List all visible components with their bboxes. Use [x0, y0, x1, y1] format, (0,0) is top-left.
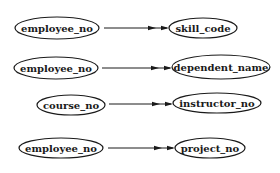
node-label: employee_no — [25, 143, 97, 154]
dependency-arrow — [109, 102, 173, 106]
edges-layer — [102, 26, 175, 150]
nodes-layer: employee_noskill_codeemployee_nodependen… — [14, 17, 270, 158]
arrowhead-icon — [161, 26, 169, 30]
attribute-node: project_no — [175, 138, 245, 158]
dependency-arrow — [102, 66, 172, 70]
arrowhead-icon — [165, 102, 173, 106]
attribute-node: employee_no — [14, 57, 98, 79]
node-label: project_no — [181, 143, 240, 154]
dependency-arrow — [108, 146, 175, 150]
node-label: instructor_no — [179, 98, 255, 109]
attribute-node: employee_no — [15, 17, 99, 39]
node-label: employee_no — [21, 23, 93, 34]
attribute-node: skill_code — [169, 18, 237, 38]
attribute-node: dependent_name — [172, 55, 270, 79]
attribute-node: course_no — [37, 95, 105, 115]
arrowhead-icon — [151, 66, 159, 70]
node-label: skill_code — [175, 23, 230, 34]
dependency-arrow — [104, 26, 169, 30]
node-label: course_no — [43, 100, 100, 111]
attribute-node: employee_no — [19, 138, 103, 158]
arrowhead-icon — [167, 146, 175, 150]
arrowhead-icon — [148, 26, 156, 30]
dependency-diagram: employee_noskill_codeemployee_nodependen… — [0, 0, 280, 173]
node-label: dependent_name — [174, 62, 269, 73]
node-label: employee_no — [20, 63, 92, 74]
attribute-node: instructor_no — [173, 93, 261, 113]
arrowhead-icon — [154, 146, 162, 150]
arrowhead-icon — [164, 66, 172, 70]
arrowhead-icon — [152, 102, 160, 106]
